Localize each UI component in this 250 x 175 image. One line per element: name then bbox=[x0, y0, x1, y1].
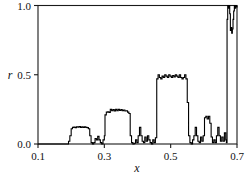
step-function-chart: 0.10.30.50.7 0.00.51.0 x r bbox=[0, 0, 250, 175]
x-tick-label: 0.7 bbox=[230, 150, 244, 162]
y-axis-label: r bbox=[8, 68, 13, 82]
y-tick-label: 0.5 bbox=[17, 69, 31, 81]
x-axis-label: x bbox=[133, 161, 140, 175]
winding-number-curve bbox=[38, 6, 237, 145]
y-tick-label: 1.0 bbox=[17, 0, 31, 12]
y-tick-label: 0.0 bbox=[17, 138, 31, 150]
data-series-group bbox=[38, 6, 237, 145]
y-axis-ticks bbox=[34, 6, 38, 145]
x-tick-label: 0.3 bbox=[97, 150, 111, 162]
x-tick-label: 0.1 bbox=[31, 150, 45, 162]
y-axis-tick-labels: 0.00.51.0 bbox=[17, 0, 31, 150]
plot-frame-rect bbox=[38, 6, 237, 145]
x-axis-ticks bbox=[38, 144, 237, 148]
chart-container: 0.10.30.50.7 0.00.51.0 x r bbox=[0, 0, 250, 175]
plot-frame bbox=[38, 6, 237, 145]
x-tick-label: 0.5 bbox=[164, 150, 178, 162]
